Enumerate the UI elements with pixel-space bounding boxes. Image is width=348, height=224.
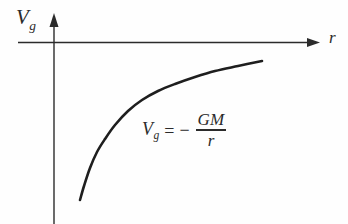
gravitational-potential-figure: Vg r Vg = − GM r [0,0,348,224]
x-axis-arrowhead [307,38,320,47]
equation-lhs: Vg [142,120,159,142]
equation-annotation: Vg = − GM r [142,112,226,150]
equation-equals-sign: = [164,122,174,140]
x-axis-label: r [329,29,336,46]
y-axis-label-main: V [16,5,29,29]
equation-numerator: GM [196,111,227,129]
y-axis-arrowhead [50,13,59,27]
equation-fraction: GM r [196,111,227,149]
equation-minus-sign: − [179,121,189,139]
equation-lhs-subscript: g [154,129,160,141]
y-axis-label: Vg [16,7,36,32]
equation-denominator: r [206,131,217,149]
y-axis-label-subscript: g [29,18,36,33]
equation-lhs-main: V [142,119,153,139]
